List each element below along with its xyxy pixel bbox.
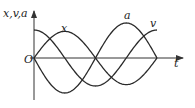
t-axis-label: t [174,57,179,70]
origin-label: O [24,53,33,66]
shm-graph: x,v,a O t x a v [0,0,195,108]
curve-label-v: v [150,17,157,30]
y-axis-label: x,v,a [3,7,28,20]
curve-label-a: a [124,9,131,22]
curve-label-x: x [61,22,68,35]
